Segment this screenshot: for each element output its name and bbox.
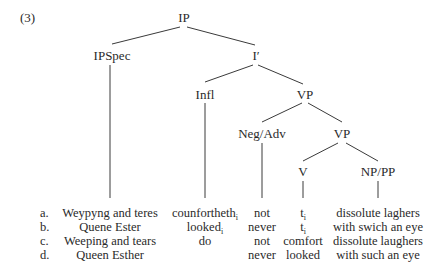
infl-terminal: do (199, 234, 212, 248)
row-label: d. (40, 248, 49, 262)
neg-adv-terminal: not (254, 234, 270, 248)
ipspec-terminal: Weeping and tears (64, 234, 156, 248)
node-ipspec: IPSpec (94, 49, 131, 63)
ipspec-terminal: Queen Esther (76, 248, 144, 262)
np-pp-terminal: dissolute laughers (333, 234, 423, 248)
node-ip: IP (178, 11, 190, 25)
v-terminal: ti (300, 220, 306, 234)
node-v: V (298, 165, 307, 179)
infl-terminal: lookedi (187, 220, 223, 234)
node-vp: VP (297, 88, 314, 102)
node-np-pp: NP/PP (361, 165, 396, 179)
node-infl: Infl (196, 88, 215, 102)
neg-adv-terminal: never (248, 248, 276, 262)
ipspec-terminal: Quene Ester (79, 220, 140, 234)
np-pp-terminal: dissolute laghers (336, 206, 420, 220)
node-neg-adv: Neg/Adv (238, 127, 286, 141)
node-i-bar: I′ (252, 49, 259, 63)
row-label: b. (40, 220, 49, 234)
v-terminal: ti (300, 206, 306, 220)
row-label: c. (40, 234, 49, 248)
ipspec-terminal: Weypyng and teres (62, 206, 158, 220)
np-pp-terminal: with such an eye (336, 248, 420, 262)
row-label: a. (40, 206, 49, 220)
np-pp-terminal: with swich an eye (333, 220, 423, 234)
v-terminal: looked (286, 248, 320, 262)
node-vp-inner: VP (334, 127, 351, 141)
neg-adv-terminal: not (254, 206, 270, 220)
infl-terminal: counforthethi (172, 206, 238, 220)
v-terminal: comfort (283, 234, 323, 248)
neg-adv-terminal: never (248, 220, 276, 234)
